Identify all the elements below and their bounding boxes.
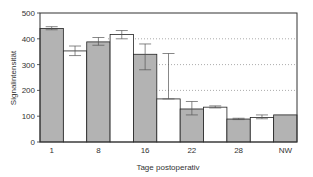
y-axis-label: Signalintensität — [9, 50, 18, 105]
y-tick-label: 100 — [22, 112, 36, 121]
bar — [87, 42, 110, 142]
x-axis-label: Tage postoperativ — [136, 163, 199, 172]
x-tick-label: 16 — [141, 146, 150, 155]
x-tick-label: 28 — [234, 146, 243, 155]
bar — [250, 117, 273, 142]
bar-chart: 0100200300400500 18162228NW Signalintens… — [0, 0, 313, 177]
bar — [274, 115, 297, 142]
y-tick-label: 0 — [31, 138, 36, 147]
bar — [227, 119, 250, 142]
y-tick-label: 300 — [22, 61, 36, 70]
y-tick-label: 400 — [22, 35, 36, 44]
y-tick-label: 200 — [22, 86, 36, 95]
x-tick-label: NW — [279, 146, 293, 155]
x-tick-label: 8 — [96, 146, 101, 155]
y-tick-label: 500 — [22, 9, 36, 18]
bar — [110, 34, 133, 142]
x-axis-ticks: 18162228NW — [49, 146, 292, 155]
bar — [63, 51, 86, 142]
x-tick-label: 1 — [49, 146, 54, 155]
bar — [40, 28, 63, 142]
bar — [157, 99, 180, 142]
bar — [204, 107, 227, 142]
y-axis-ticks: 0100200300400500 — [22, 9, 40, 147]
x-tick-label: 22 — [187, 146, 196, 155]
